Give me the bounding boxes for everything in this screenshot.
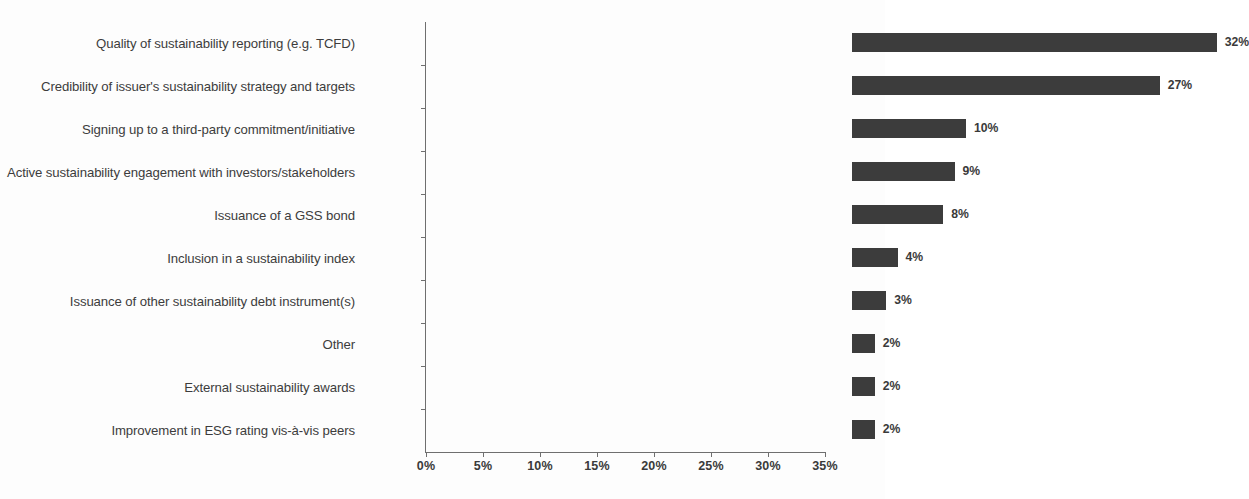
category-label: Signing up to a third-party commitment/i…: [82, 108, 355, 151]
bar-value-label: 2%: [883, 420, 901, 439]
bar-value-label: 2%: [883, 377, 901, 396]
x-axis-tick: [825, 452, 826, 457]
bar: [852, 162, 955, 181]
y-axis-tick: [421, 194, 426, 195]
x-axis-tick-label: 15%: [584, 459, 610, 473]
bar-value-label: 2%: [883, 334, 901, 353]
bar: [852, 205, 943, 224]
bar-value-label: 32%: [1225, 33, 1249, 52]
chart-row: Improvement in ESG rating vis-à-vis peer…: [426, 409, 825, 452]
chart-row: Other2%: [426, 323, 825, 366]
category-label: Improvement in ESG rating vis-à-vis peer…: [111, 409, 355, 452]
x-axis-tick: [768, 452, 769, 457]
chart-row: Signing up to a third-party commitment/i…: [426, 108, 825, 151]
bar: [852, 33, 1217, 52]
plot-area: Quality of sustainability reporting (e.g…: [426, 22, 825, 452]
bar-value-label: 27%: [1168, 76, 1192, 95]
category-label: Other: [323, 323, 355, 366]
bar: [852, 377, 875, 396]
category-label: Issuance of other sustainability debt in…: [70, 280, 355, 323]
y-axis-tick: [421, 237, 426, 238]
chart-row: Inclusion in a sustainability index4%: [426, 237, 825, 280]
chart-row: Issuance of a GSS bond8%: [426, 194, 825, 237]
chart-row: Quality of sustainability reporting (e.g…: [426, 22, 825, 65]
bar: [852, 76, 1160, 95]
x-axis-tick-label: 5%: [474, 459, 492, 473]
bar: [852, 291, 886, 310]
bar-value-label: 4%: [906, 248, 924, 267]
x-axis-tick: [540, 452, 541, 457]
x-axis-tick: [654, 452, 655, 457]
bar-value-label: 3%: [894, 291, 912, 310]
x-axis-tick: [711, 452, 712, 457]
y-axis-tick: [421, 323, 426, 324]
x-axis-tick: [483, 452, 484, 457]
y-axis-tick: [421, 65, 426, 66]
x-axis-tick-label: 35%: [812, 459, 838, 473]
bar: [852, 334, 875, 353]
category-label: Credibility of issuer's sustainability s…: [41, 65, 355, 108]
x-axis-tick: [597, 452, 598, 457]
bar-value-label: 8%: [951, 205, 969, 224]
category-label: Quality of sustainability reporting (e.g…: [96, 22, 355, 65]
y-axis-tick: [421, 151, 426, 152]
x-axis-tick-label: 25%: [698, 459, 724, 473]
chart-row: Credibility of issuer's sustainability s…: [426, 65, 825, 108]
x-axis-tick: [426, 452, 427, 457]
bar: [852, 248, 898, 267]
x-axis-tick-label: 10%: [527, 459, 553, 473]
chart-row: Issuance of other sustainability debt in…: [426, 280, 825, 323]
category-label: Inclusion in a sustainability index: [167, 237, 355, 280]
y-axis-tick: [421, 280, 426, 281]
category-label: Issuance of a GSS bond: [214, 194, 355, 237]
chart-row: External sustainability awards2%: [426, 366, 825, 409]
category-label: External sustainability awards: [184, 366, 355, 409]
x-axis-line: [425, 452, 826, 453]
y-axis-tick: [421, 108, 426, 109]
bar-value-label: 9%: [963, 162, 981, 181]
bar: [852, 420, 875, 439]
category-label: Active sustainability engagement with in…: [7, 151, 355, 194]
y-axis-tick: [421, 366, 426, 367]
x-axis-tick-label: 20%: [641, 459, 667, 473]
x-axis-tick-label: 0%: [417, 459, 435, 473]
x-axis-tick-label: 30%: [755, 459, 781, 473]
chart-row: Active sustainability engagement with in…: [426, 151, 825, 194]
bar-value-label: 10%: [974, 119, 998, 138]
y-axis-tick: [421, 409, 426, 410]
bar: [852, 119, 966, 138]
